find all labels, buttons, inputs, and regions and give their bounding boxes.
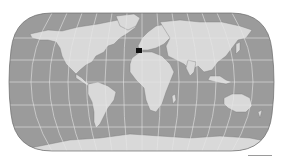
world-map <box>0 0 283 159</box>
scale-bar <box>248 155 272 156</box>
map-canvas <box>0 0 283 159</box>
highlight-marker-iberia <box>136 48 142 53</box>
